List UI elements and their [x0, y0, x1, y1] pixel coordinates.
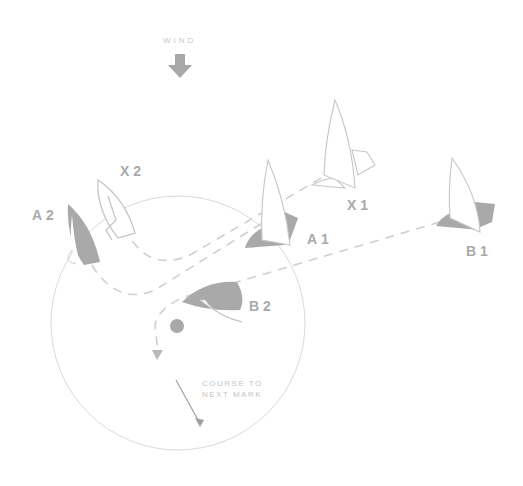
wind-label: WIND — [163, 35, 196, 46]
course-label: COURSE TO NEXT MARK — [202, 378, 263, 400]
mark-buoy — [170, 319, 184, 333]
boat-label-x1: X1 — [347, 197, 372, 213]
track-arrowhead-icon — [152, 350, 163, 360]
track-x — [118, 170, 335, 260]
boat-b1 — [436, 158, 495, 232]
boat-b2 — [182, 282, 242, 322]
boat-a1 — [245, 160, 298, 248]
boat-x2 — [98, 180, 135, 240]
boat-label-a2: A2 — [32, 207, 58, 223]
track-b — [155, 222, 440, 352]
boat-label-x2: X2 — [120, 163, 145, 179]
boat-label-a1: A1 — [307, 231, 333, 247]
course-arrowhead-icon — [195, 418, 204, 427]
course-arrow-line — [176, 380, 198, 420]
boat-a2 — [68, 204, 100, 265]
boat-label-b2: B2 — [249, 298, 275, 314]
diagram-canvas — [0, 0, 523, 486]
boat-x1 — [312, 100, 375, 188]
course-label-line1: COURSE TO — [202, 378, 263, 389]
course-label-line2: NEXT MARK — [202, 389, 263, 400]
wind-arrow-icon — [168, 54, 192, 78]
boat-label-b1: B1 — [466, 243, 492, 259]
